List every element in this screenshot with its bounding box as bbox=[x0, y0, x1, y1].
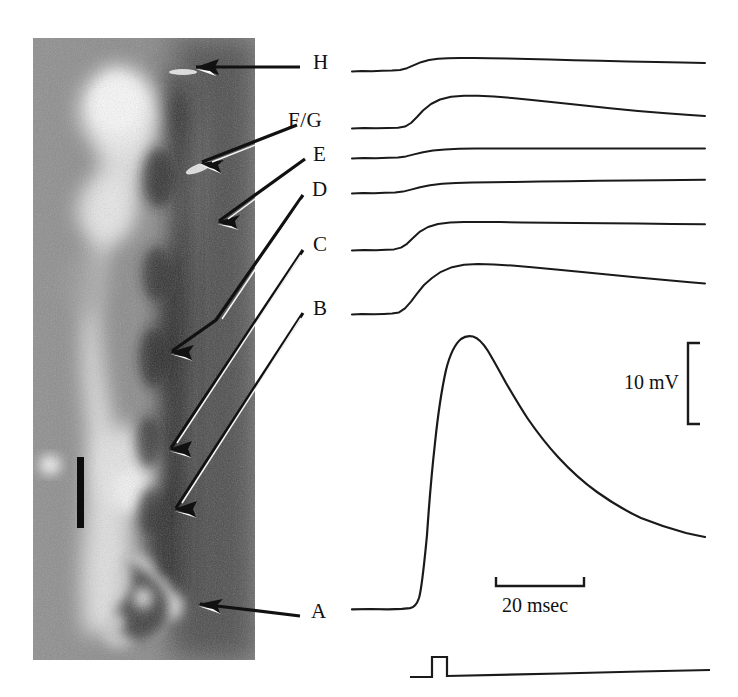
voltage-traces: .tr { stroke:#1a1a1a; stroke-width:2; fi… bbox=[0, 0, 738, 697]
label-FG: F/G bbox=[288, 110, 322, 131]
trace-B bbox=[352, 264, 705, 314]
time-scale-bar bbox=[496, 577, 584, 586]
voltage-scale-label: 10 mV bbox=[624, 372, 679, 392]
electrophysiology-figure: .arw { stroke:#111111; stroke-width:3.2;… bbox=[0, 0, 738, 697]
stimulus-marker bbox=[410, 657, 710, 677]
label-H: H bbox=[313, 52, 329, 73]
label-D: D bbox=[312, 179, 328, 200]
label-E: E bbox=[313, 144, 326, 165]
voltage-scale-bar bbox=[688, 343, 700, 424]
label-A: A bbox=[311, 601, 327, 622]
trace-FG bbox=[352, 96, 705, 129]
trace-D bbox=[352, 180, 705, 194]
label-B: B bbox=[313, 298, 328, 319]
label-C: C bbox=[313, 234, 328, 255]
trace-H bbox=[352, 58, 705, 71]
trace-C bbox=[352, 222, 705, 250]
time-scale-label: 20 msec bbox=[502, 595, 568, 615]
trace-E bbox=[352, 148, 705, 158]
